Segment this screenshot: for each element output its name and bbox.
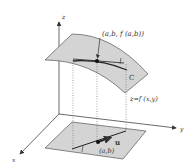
surface-equation-label: z=f (x,y) — [129, 95, 158, 103]
x-axis-label: x — [12, 156, 16, 163]
diagram-canvas: z y x (a,b, f (a,b)) C z=f (x,y) (a,b) u — [0, 0, 192, 166]
surface-point — [95, 59, 99, 63]
y-axis-label: y — [179, 125, 184, 133]
base-plane — [45, 122, 146, 159]
surface-point-label: (a,b, f (a,b)) — [102, 30, 144, 38]
surface-patch — [45, 34, 148, 93]
z-axis-label: z — [61, 13, 66, 20]
base-point — [96, 140, 100, 144]
base-point-label: (a,b) — [99, 147, 115, 155]
curve-label: C — [129, 74, 134, 82]
vector-u-label: u — [115, 138, 120, 147]
